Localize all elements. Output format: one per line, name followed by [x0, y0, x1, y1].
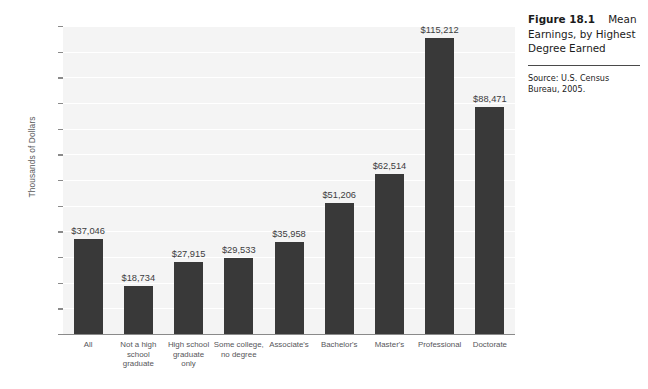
bar-value-label: $88,471 — [450, 94, 530, 104]
bar — [325, 203, 354, 334]
x-axis-line — [63, 334, 515, 335]
bar-chart: Thousands of Dollars 0102030405060708090… — [0, 0, 516, 389]
bar — [275, 242, 304, 334]
bar — [174, 262, 203, 334]
bar-value-label: $51,206 — [299, 190, 379, 200]
y-axis-tick-mark — [58, 180, 63, 181]
figure-caption: Figure 18.1 Mean Earnings, by Highest De… — [528, 12, 640, 56]
x-axis-category-label: Doctorate — [453, 340, 527, 350]
y-axis-tick-mark — [58, 77, 63, 78]
bar — [124, 286, 153, 334]
y-axis-tick-mark — [58, 206, 63, 207]
bar — [224, 258, 253, 334]
y-axis-tick-mark — [58, 154, 63, 155]
figure-number: Figure 18.1 — [528, 13, 595, 25]
bar — [475, 107, 504, 334]
y-axis-tick-mark — [58, 129, 63, 130]
bar-value-label: $115,212 — [400, 25, 480, 35]
y-axis-tick-mark — [58, 257, 63, 258]
caption-block: Figure 18.1 Mean Earnings, by Highest De… — [528, 12, 640, 96]
bar-value-label: $62,514 — [349, 161, 429, 171]
bar-value-label: $37,046 — [48, 226, 128, 236]
caption-divider — [528, 65, 640, 66]
y-axis-tick-mark — [58, 308, 63, 309]
bar — [74, 239, 103, 334]
figure-title-spacer — [598, 13, 605, 25]
y-axis-tick-mark — [58, 103, 63, 104]
y-axis-tick-mark — [58, 52, 63, 53]
bar-value-label: $29,533 — [199, 245, 279, 255]
y-axis-title: Thousands of Dollars — [27, 87, 37, 227]
y-axis-tick-mark — [58, 26, 63, 27]
bar-value-label: $35,958 — [249, 229, 329, 239]
bar — [425, 38, 454, 334]
figure-page: Thousands of Dollars 0102030405060708090… — [0, 0, 648, 389]
source-note: Source: U.S. Census Bureau, 2005. — [528, 73, 640, 96]
y-axis-tick-mark — [58, 334, 63, 335]
y-axis-tick-mark — [58, 283, 63, 284]
bar — [375, 174, 404, 334]
bar-value-label: $18,734 — [98, 273, 178, 283]
